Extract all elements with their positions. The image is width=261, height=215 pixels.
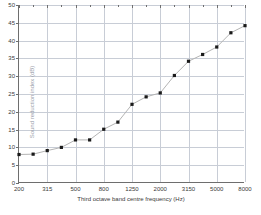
x-axis-tick <box>245 5 246 8</box>
x-axis-tick-label: 5000 <box>210 186 223 192</box>
data-point <box>74 138 77 141</box>
y-axis-tick-label: 10 <box>8 144 15 150</box>
y-axis-tick-label: 35 <box>8 55 15 61</box>
y-axis-tick <box>16 183 19 184</box>
y-axis-tick-label: 5 <box>12 162 15 168</box>
data-point <box>243 24 246 27</box>
y-axis-tick-label: 20 <box>8 109 15 115</box>
data-point <box>130 103 133 106</box>
x-axis-tick-label: 3150 <box>182 186 195 192</box>
y-axis-tick-label: 45 <box>8 20 15 26</box>
data-point <box>173 74 176 77</box>
x-axis-tick-label: 800 <box>99 186 109 192</box>
data-point <box>46 149 49 152</box>
x-axis-tick-label: 1250 <box>125 186 138 192</box>
data-point <box>159 91 162 94</box>
y-axis-tick-label: 30 <box>8 73 15 79</box>
x-axis-tick-label: 500 <box>70 186 80 192</box>
series-markers <box>17 24 246 156</box>
plot-area: 05101520253035404550 2003155008001250200… <box>18 5 244 183</box>
y-axis-tick-label: 15 <box>8 127 15 133</box>
data-point <box>116 121 119 124</box>
y-axis-tick-label: 40 <box>8 38 15 44</box>
x-axis-title: Third octave band centre frequency (Hz) <box>18 196 244 202</box>
data-point <box>187 60 190 63</box>
data-point <box>201 53 204 56</box>
y-axis-tick-label: 50 <box>8 2 15 8</box>
series-line <box>19 26 245 155</box>
x-axis-tick-label: 315 <box>42 186 52 192</box>
chart-container: 05101520253035404550 2003155008001250200… <box>0 0 261 215</box>
data-point <box>102 128 105 131</box>
data-point <box>229 31 232 34</box>
x-axis-tick-label: 8000 <box>238 186 251 192</box>
y-axis-tick-label: 25 <box>8 91 15 97</box>
data-point <box>88 138 91 141</box>
data-point <box>215 45 218 48</box>
x-axis-tick-label: 2000 <box>154 186 167 192</box>
data-series <box>19 5 245 183</box>
data-point <box>17 153 20 156</box>
data-point <box>145 95 148 98</box>
data-point <box>60 146 63 149</box>
gridline-vertical <box>245 5 246 182</box>
y-axis-title: Sound reduction index (dB) <box>29 47 35 157</box>
x-axis-tick-label: 200 <box>14 186 24 192</box>
